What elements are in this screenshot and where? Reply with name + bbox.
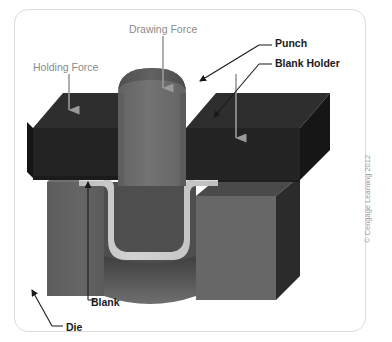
label-blank: Blank <box>91 297 120 308</box>
label-blank-holder: Blank Holder <box>275 58 340 69</box>
punch-leader-diagonal <box>200 45 259 81</box>
blank-holder-left-end <box>27 122 33 178</box>
blank-holder-left-front <box>33 128 118 178</box>
label-die: Die <box>66 322 82 333</box>
label-punch: Punch <box>275 38 307 49</box>
punch-body <box>118 68 186 186</box>
label-drawing-force: Drawing Force <box>129 24 197 35</box>
die-right-side <box>276 176 300 300</box>
label-holding-force: Holding Force <box>33 62 98 73</box>
die-right-front <box>196 196 276 300</box>
punch-right-shade <box>180 93 186 186</box>
deep-drawing-figure: Drawing Force Holding Force Punch Blank … <box>0 0 392 342</box>
die-left-front <box>47 182 104 296</box>
blank-holder-bottom-shadow <box>33 176 118 180</box>
deep-drawing-illustration <box>0 0 392 342</box>
blank-holder-right-front <box>186 128 300 180</box>
copyright-notice: © Cengage Learning 2012 <box>364 155 372 243</box>
punch-left-shade <box>118 93 124 186</box>
